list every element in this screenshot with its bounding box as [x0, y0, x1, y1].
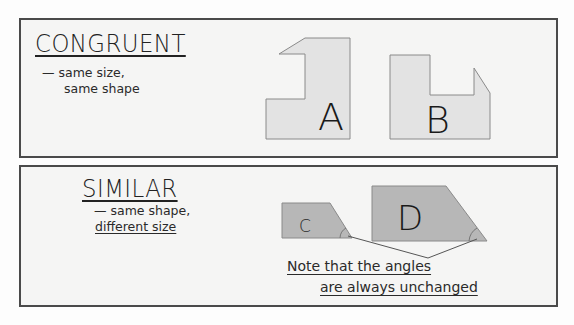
- angles-note-line-2: are always unchanged: [320, 279, 478, 295]
- similar-description-line-2: different size: [95, 219, 176, 235]
- similar-description-line-1: — same shape,: [94, 203, 190, 219]
- similar-title: SIMILAR: [82, 175, 178, 203]
- congruent-title: CONGRUENT: [35, 30, 186, 58]
- congruent-description-line-2: same shape: [64, 81, 140, 97]
- congruent-description-line-1: — same size,: [42, 65, 125, 81]
- angles-note-line-1: Note that the angles: [287, 258, 431, 274]
- congruent-panel: CONGRUENT — same size, same shape: [19, 18, 558, 158]
